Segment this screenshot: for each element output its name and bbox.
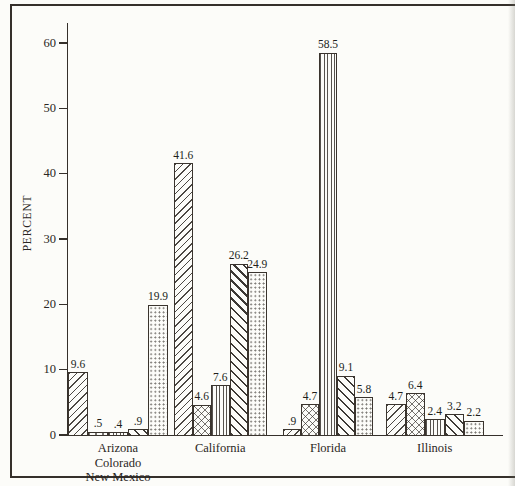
y-tick-label: 50 xyxy=(30,101,56,116)
bar-series-3-group1 xyxy=(108,432,128,436)
scan-edge-shadow xyxy=(508,0,515,486)
frame-border-left xyxy=(10,4,12,478)
y-tick-label: 20 xyxy=(30,297,56,312)
bar-value-label: 9.6 xyxy=(56,358,100,371)
bar-value-label: 2.2 xyxy=(452,406,496,419)
bar-value-label: 41.6 xyxy=(161,149,205,162)
y-tick-label: 40 xyxy=(30,166,56,181)
bar-value-label: 5.8 xyxy=(342,383,386,396)
bar-series-5-group3 xyxy=(355,397,373,436)
bar-series-5-group2 xyxy=(248,272,267,436)
bar-series-4-group1 xyxy=(128,429,148,436)
bar-value-label: 58.5 xyxy=(306,38,350,51)
y-tick xyxy=(59,434,67,435)
y-tick xyxy=(59,304,67,305)
y-axis-title: PERCENT xyxy=(21,178,33,268)
y-tick-label: 30 xyxy=(30,232,56,247)
bar-value-label: 19.9 xyxy=(136,290,180,303)
bar-series-1-group3 xyxy=(283,429,301,436)
category-label: New Mexico xyxy=(43,470,193,485)
bar-series-2-group2 xyxy=(193,405,212,436)
y-tick-label: 60 xyxy=(30,36,56,51)
y-tick-label: 10 xyxy=(30,362,56,377)
bar-series-3-group3 xyxy=(319,53,337,436)
y-tick xyxy=(59,108,67,109)
bar-series-3-group2 xyxy=(211,385,230,436)
bar-series-4-group2 xyxy=(230,264,249,436)
bar-value-label: 24.9 xyxy=(235,258,279,271)
bar-value-label: 6.4 xyxy=(393,379,437,392)
bar-series-2-group3 xyxy=(301,404,319,436)
scanned-chart-page: PERCENT 01020304050609.641.6.94.7.54.64.… xyxy=(0,0,515,486)
bar-series-5-group1 xyxy=(148,305,168,436)
bar-series-2-group1 xyxy=(88,432,108,436)
category-label: Illinois xyxy=(360,441,510,456)
y-tick xyxy=(59,173,67,174)
bar-series-1-group4 xyxy=(386,404,406,436)
y-tick xyxy=(59,42,67,43)
bar-series-3-group4 xyxy=(425,419,445,436)
y-tick xyxy=(59,238,67,239)
frame-border-top xyxy=(10,4,515,6)
bar-value-label: 9.1 xyxy=(324,361,368,374)
bar-series-5-group4 xyxy=(464,421,484,436)
category-label: Colorado xyxy=(43,456,193,471)
